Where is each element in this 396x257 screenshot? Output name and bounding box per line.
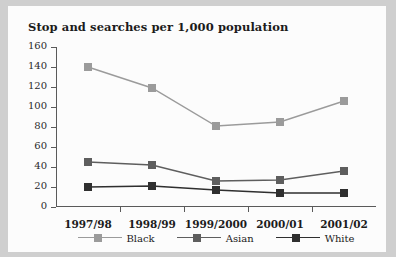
data-point-marker [340,97,348,105]
data-point-marker [276,118,284,126]
y-axis-tick-label: 80 [34,120,47,131]
data-point-marker [212,122,220,130]
data-point-marker [84,183,92,191]
legend-label: Asian [226,233,254,244]
legend-swatch-icon [177,232,221,244]
series-line [88,67,344,126]
data-point-marker [212,177,220,185]
chart-legend: BlackAsianWhite [56,232,376,244]
legend-swatch-icon [78,232,122,244]
y-axis-tick-mark [51,207,56,208]
x-axis-tick-mark [184,207,185,212]
legend-label: Black [127,233,155,244]
data-point-marker [340,167,348,175]
y-axis-tick-label: 120 [28,80,47,91]
series-asian [84,158,348,185]
x-axis-tick-label: 2001/02 [320,218,368,230]
y-axis-tick-label: 160 [28,40,47,51]
data-point-marker [276,176,284,184]
data-point-marker [148,182,156,190]
y-axis-tick-label: 100 [28,100,47,111]
data-point-marker [148,84,156,92]
legend-item-white[interactable]: White [276,232,355,244]
x-axis-tick-label: 1997/98 [64,218,112,230]
y-axis-tick-label: 0 [41,200,47,211]
legend-label: White [325,233,355,244]
x-axis-tick-label: 1999/2000 [185,218,247,230]
legend-item-asian[interactable]: Asian [177,232,254,244]
data-point-marker [340,189,348,197]
chart-canvas: Stop and searches per 1,000 population 0… [8,6,386,252]
chart-figure: Stop and searches per 1,000 population 0… [0,0,396,257]
data-point-marker [276,189,284,197]
legend-marker [292,234,300,242]
legend-swatch-icon [276,232,320,244]
series-black [84,63,348,130]
plot-area: 020406080100120140160 1997/981998/991999… [56,47,376,207]
x-axis-tick-mark [312,207,313,212]
x-axis-tick-mark [248,207,249,212]
y-axis-tick-label: 140 [28,60,47,71]
x-axis-tick-mark [120,207,121,212]
data-point-marker [84,63,92,71]
data-point-marker [84,158,92,166]
x-axis-tick-label: 2000/01 [256,218,304,230]
y-axis-tick-label: 60 [34,140,47,151]
x-axis-tick-label: 1998/99 [128,218,176,230]
legend-marker [193,234,201,242]
chart-title: Stop and searches per 1,000 population [28,20,289,34]
data-point-marker [148,161,156,169]
y-axis-tick-label: 20 [34,180,47,191]
series-layer [56,47,376,207]
legend-marker [94,234,102,242]
data-point-marker [212,186,220,194]
y-axis-tick-label: 40 [34,160,47,171]
legend-item-black[interactable]: Black [78,232,155,244]
